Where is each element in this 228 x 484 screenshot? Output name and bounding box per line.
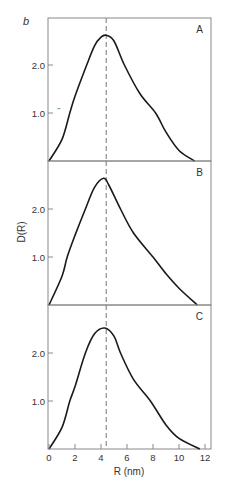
panel-frame-a [48, 18, 211, 161]
y-tick-label: 2.0 [32, 60, 45, 71]
panel-frame-c [48, 305, 211, 449]
y-tick-label: 1.0 [32, 252, 45, 263]
y-axis-label: D(R) [16, 221, 27, 242]
distribution-curve-b [49, 178, 197, 305]
x-tick-label: 4 [98, 452, 103, 463]
panel-frame-b [48, 161, 211, 305]
panel-label-c: C [196, 311, 203, 322]
y-tick-label: 2.0 [32, 348, 45, 359]
x-tick-label: 10 [174, 452, 185, 463]
x-tick-label: 6 [124, 452, 129, 463]
distribution-curve-a [49, 35, 195, 161]
panel-label-a: A [196, 24, 203, 35]
figure-label: b [23, 15, 29, 27]
x-tick-label: 12 [200, 452, 211, 463]
x-tick-label: 8 [150, 452, 155, 463]
y-tick-label: 1.0 [32, 396, 45, 407]
x-tick-label: 2 [72, 452, 77, 463]
panel-label-b: B [196, 167, 203, 178]
x-tick-label: 0 [46, 452, 51, 463]
y-tick-label: 1.0 [32, 108, 45, 119]
y-tick-label: 2.0 [32, 204, 45, 215]
chart-figure: b1.02.0A1.02.0B1.02.0C024681012˝R (nm)D(… [0, 0, 228, 484]
x-axis-label: R (nm) [114, 466, 145, 477]
distribution-curve-c [49, 328, 200, 449]
stray-mark: ˝ [57, 106, 61, 117]
